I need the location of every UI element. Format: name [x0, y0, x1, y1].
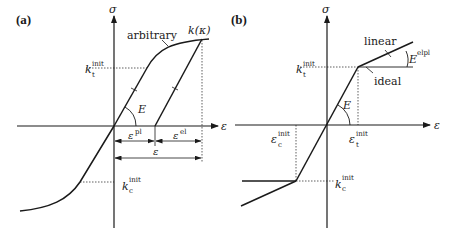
svg-text:E: E [408, 53, 417, 66]
kt-init-label: k t init [296, 60, 315, 79]
sigma-axis-label: σ [109, 3, 117, 16]
svg-text:ε: ε [128, 130, 133, 141]
svg-text:k: k [85, 63, 92, 76]
svg-text:ε: ε [349, 133, 355, 146]
svg-text:init: init [278, 130, 290, 138]
kc-init-label: k c init [335, 174, 354, 193]
svg-text:t: t [356, 141, 359, 149]
svg-text:init: init [303, 60, 315, 68]
epsilon-axis-label: ε [221, 120, 227, 133]
elastic-loading-line [114, 68, 147, 126]
svg-text:t: t [303, 71, 306, 79]
kt-init-label: k t init [85, 60, 104, 79]
svg-text:init: init [129, 176, 141, 184]
modulus-label: E [342, 99, 351, 112]
svg-text:c: c [342, 185, 346, 193]
panel-b: (b) σ ε linear ideal E elpl E [231, 3, 440, 228]
ideal-leader [366, 67, 373, 73]
figure-canvas: (a) σ ε arbitrary k(κ) E k t init [0, 0, 455, 240]
linear-compression-line [241, 181, 296, 206]
linear-label: linear [364, 35, 397, 48]
ec-init-label: ε c init [271, 130, 290, 149]
modulus-label: E [137, 103, 146, 116]
epsilon-axis-label: ε [434, 119, 440, 132]
svg-text:k: k [122, 180, 129, 193]
ideal-label: ideal [374, 75, 402, 88]
hardening-label: k(κ) [188, 24, 210, 37]
svg-text:init: init [356, 130, 368, 138]
svg-text:k: k [335, 178, 342, 191]
svg-text:k: k [296, 63, 303, 76]
svg-text:init: init [92, 60, 104, 68]
panel-b-label: (b) [231, 12, 247, 27]
modulus-angle-arc [125, 107, 136, 126]
unloading-line [155, 39, 202, 126]
arbitrary-label: arbitrary [127, 29, 178, 42]
kc-init-label: k c init [122, 176, 141, 195]
total-strain-label: ε [153, 146, 158, 157]
svg-text:t: t [92, 71, 95, 79]
svg-text:el: el [180, 128, 187, 136]
svg-text:elpl: elpl [417, 49, 431, 57]
svg-text:ε: ε [271, 133, 277, 146]
svg-text:ε: ε [173, 130, 178, 141]
svg-text:c: c [129, 187, 133, 195]
panel-a-label: (a) [16, 12, 31, 27]
svg-text:pl: pl [135, 128, 142, 136]
compression-curve [20, 126, 114, 211]
svg-text:c: c [278, 141, 282, 149]
elastic-strain-label: ε el [173, 128, 187, 141]
panel-a: (a) σ ε arbitrary k(κ) E k t init [16, 3, 227, 228]
elpl-modulus-label: E elpl [408, 49, 431, 66]
svg-text:init: init [342, 174, 354, 182]
et-init-label: ε t init [349, 130, 368, 149]
plastic-strain-label: ε pl [128, 128, 142, 141]
sigma-axis-label: σ [322, 3, 330, 16]
elpl-angle-arc [406, 51, 408, 67]
